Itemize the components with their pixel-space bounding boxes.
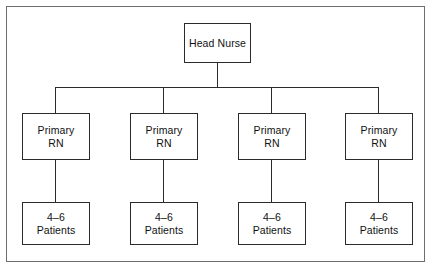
connector-bus-to-rn-4 <box>378 87 379 113</box>
node-patients-2-line-1: 4–6 <box>155 211 173 223</box>
node-head-nurse: Head Nurse <box>184 23 251 63</box>
node-primary-rn-1-line-2: RN <box>48 137 63 149</box>
node-patients-4: 4–6 Patients <box>345 202 413 245</box>
connector-rn-to-patients-4 <box>378 160 379 202</box>
node-primary-rn-4-line-2: RN <box>371 137 386 149</box>
connector-bus-to-rn-3 <box>271 87 272 113</box>
connector-root-stem <box>217 63 218 87</box>
node-patients-2: 4–6 Patients <box>130 202 198 245</box>
connector-bus-to-rn-2 <box>163 87 164 113</box>
node-primary-rn-2-line-1: Primary <box>146 124 183 136</box>
node-patients-2-line-2: Patients <box>145 224 184 236</box>
node-patients-1: 4–6 Patients <box>22 202 90 245</box>
node-head-nurse-line-1: Head Nurse <box>189 37 246 49</box>
diagram-canvas: Head Nurse Primary RN 4–6 Patients Prima… <box>0 0 432 269</box>
node-patients-3-line-2: Patients <box>253 224 292 236</box>
node-primary-rn-1-line-1: Primary <box>38 124 75 136</box>
node-primary-rn-3-line-1: Primary <box>254 124 291 136</box>
node-primary-rn-2-line-2: RN <box>156 137 171 149</box>
node-patients-1-line-1: 4–6 <box>47 211 65 223</box>
node-patients-1-line-2: Patients <box>37 224 76 236</box>
connector-rn-to-patients-3 <box>271 160 272 202</box>
node-primary-rn-1: Primary RN <box>22 113 90 160</box>
connector-bus-to-rn-1 <box>55 87 56 113</box>
node-patients-3: 4–6 Patients <box>238 202 306 245</box>
node-patients-4-line-1: 4–6 <box>370 211 388 223</box>
node-primary-rn-4-line-1: Primary <box>361 124 398 136</box>
connector-bus <box>55 87 379 88</box>
node-primary-rn-3: Primary RN <box>238 113 306 160</box>
node-patients-3-line-1: 4–6 <box>263 211 281 223</box>
node-primary-rn-2: Primary RN <box>130 113 198 160</box>
node-primary-rn-4: Primary RN <box>345 113 413 160</box>
node-patients-4-line-2: Patients <box>360 224 399 236</box>
connector-rn-to-patients-1 <box>55 160 56 202</box>
connector-rn-to-patients-2 <box>163 160 164 202</box>
node-primary-rn-3-line-2: RN <box>264 137 279 149</box>
